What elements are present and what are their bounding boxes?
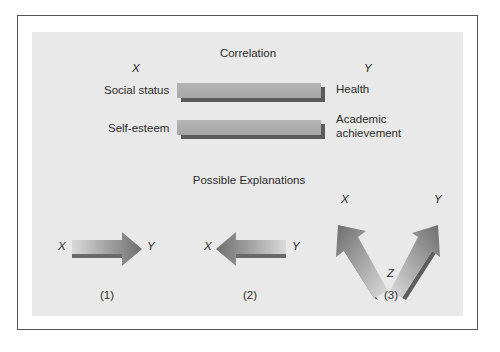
arrow3-y-label: Y [434, 193, 442, 205]
y-label-health: Health [336, 83, 369, 95]
arrow-left-icon [216, 232, 288, 272]
x-label-self-esteem: Self-esteem [108, 122, 169, 134]
y-header: Y [364, 62, 372, 74]
arrow3-z-label: Z [387, 267, 394, 279]
y-label-achievement: achievement [336, 127, 401, 139]
arrow2-x-label: X [204, 240, 212, 252]
correlation-title: Correlation [220, 47, 276, 59]
explanation-3-number: (3) [384, 289, 398, 301]
explanation-2-number: (2) [243, 289, 257, 301]
explanation-1-number: (1) [100, 289, 114, 301]
arrow1-y-label: Y [147, 240, 155, 252]
y-label-academic: Academic [336, 113, 387, 125]
arrow3-x-label: X [341, 193, 349, 205]
arrow2-y-label: Y [292, 240, 300, 252]
arrow-right-icon [72, 232, 144, 272]
arrow1-x-label: X [58, 240, 66, 252]
x-label-social-status: Social status [104, 84, 169, 96]
explanations-title: Possible Explanations [193, 174, 306, 186]
x-header: X [132, 62, 140, 74]
